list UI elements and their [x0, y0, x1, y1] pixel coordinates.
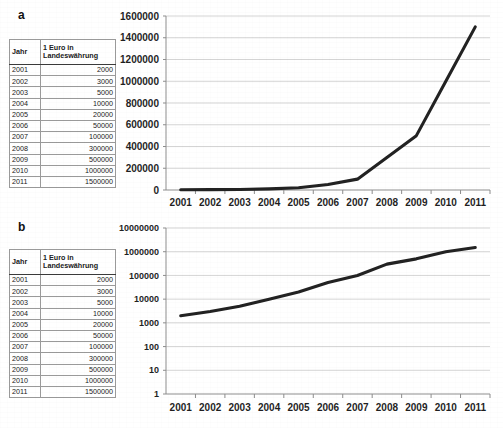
table-cell-year: 2011: [10, 176, 41, 187]
table-row: 200520000: [10, 109, 116, 120]
table-cell-rate: 3000: [41, 286, 116, 297]
table-cell-rate: 2000: [41, 65, 116, 76]
x-tick-label: 2004: [258, 402, 281, 413]
table-cell-rate: 5000: [41, 87, 116, 98]
table-cell-rate: 100000: [41, 342, 116, 353]
table-row: 2008300000: [10, 353, 116, 364]
table-cell-year: 2006: [10, 330, 41, 341]
table-b-header-row: Jahr 1 Euro in Landeswährung: [10, 250, 116, 275]
table-cell-year: 2005: [10, 319, 41, 330]
table-cell-rate: 50000: [41, 120, 116, 131]
y-tick-label: 100: [144, 342, 159, 352]
y-tick-label: 10: [149, 365, 159, 375]
chart-b-y-tick-labels: 110100100010000100000100000010000000: [119, 223, 159, 399]
y-tick-label: 10000000: [119, 223, 159, 233]
chart-a-gridlines: [163, 16, 490, 190]
panel-b: b Jahr 1 Euro in Landeswährung 200120002…: [0, 214, 503, 428]
table-cell-year: 2001: [10, 275, 41, 286]
chart-a-series-line: [181, 27, 476, 190]
table-cell-year: 2004: [10, 98, 41, 109]
table-row: 20101000000: [10, 165, 116, 176]
x-tick-label: 2009: [405, 402, 428, 413]
y-tick-label: 1000: [139, 318, 159, 328]
table-b-body: 2001200020023000200350002004100002005200…: [10, 275, 116, 398]
x-tick-label: 2007: [346, 402, 369, 413]
table-row: 20035000: [10, 87, 116, 98]
y-tick-label: 600000: [126, 119, 160, 130]
table-row: 20023000: [10, 76, 116, 87]
table-row: 2008300000: [10, 143, 116, 154]
table-row: 20035000: [10, 297, 116, 308]
panel-letter-a: a: [18, 8, 25, 22]
x-tick-label: 2005: [287, 197, 310, 208]
table-cell-year: 2009: [10, 154, 41, 165]
chart-linear-scale: 0200000400000600000800000100000012000001…: [110, 0, 503, 214]
table-cell-year: 2002: [10, 76, 41, 87]
table-cell-year: 2005: [10, 109, 41, 120]
table-cell-year: 2007: [10, 342, 41, 353]
x-tick-label: 2009: [405, 197, 428, 208]
x-tick-label: 2002: [199, 197, 222, 208]
table-cell-rate: 10000: [41, 308, 116, 319]
table-cell-rate: 20000: [41, 109, 116, 120]
table-row: 20012000: [10, 65, 116, 76]
table-cell-year: 2003: [10, 87, 41, 98]
table-cell-year: 2008: [10, 353, 41, 364]
table-a-header-rate-line2: Landeswährung: [43, 51, 98, 60]
x-tick-label: 2010: [435, 402, 458, 413]
x-tick-label: 2003: [229, 402, 252, 413]
table-row: 20101000000: [10, 375, 116, 386]
y-tick-label: 800000: [126, 98, 160, 109]
exchange-rate-table-a: Jahr 1 Euro in Landeswährung 20012000200…: [9, 39, 116, 188]
table-row: 2009500000: [10, 154, 116, 165]
table-cell-year: 2010: [10, 165, 41, 176]
x-tick-label: 2006: [317, 197, 340, 208]
table-cell-rate: 300000: [41, 143, 116, 154]
table-cell-rate: 20000: [41, 319, 116, 330]
chart-log-scale: 110100100010000100000100000010000000 200…: [110, 214, 503, 428]
y-tick-label: 400000: [126, 141, 160, 152]
table-cell-year: 2011: [10, 386, 41, 397]
table-row: 2007100000: [10, 132, 116, 143]
table-cell-year: 2008: [10, 143, 41, 154]
table-cell-year: 2010: [10, 375, 41, 386]
x-tick-label: 2006: [317, 402, 340, 413]
chart-a-y-tick-labels: 0200000400000600000800000100000012000001…: [120, 11, 159, 196]
table-a-header: Jahr 1 Euro in Landeswährung: [10, 40, 116, 65]
x-tick-label: 2001: [170, 197, 193, 208]
table-cell-year: 2004: [10, 308, 41, 319]
table-b-header-year: Jahr: [10, 250, 41, 275]
table-cell-rate: 1000000: [41, 165, 116, 176]
y-tick-label: 1: [154, 389, 159, 399]
table-cell-year: 2002: [10, 286, 41, 297]
table-row: 20111500000: [10, 176, 116, 187]
table-cell-year: 2001: [10, 65, 41, 76]
table-cell-year: 2003: [10, 297, 41, 308]
chart-b-x-tick-labels: 2001200220032004200520062007200820092010…: [170, 402, 487, 413]
chart-a-x-tick-labels: 2001200220032004200520062007200820092010…: [170, 197, 487, 208]
table-row: 200650000: [10, 120, 116, 131]
table-row: 20023000: [10, 286, 116, 297]
table-a-body: 2001200020023000200350002004100002005200…: [10, 65, 116, 188]
y-tick-label: 1200000: [120, 54, 159, 65]
table-row: 200650000: [10, 330, 116, 341]
table-cell-year: 2006: [10, 120, 41, 131]
x-tick-label: 2011: [464, 197, 486, 208]
table-cell-rate: 1000000: [41, 375, 116, 386]
table-cell-rate: 1500000: [41, 176, 116, 187]
y-tick-label: 1000000: [120, 76, 159, 87]
table-cell-rate: 1500000: [41, 386, 116, 397]
table-row: 200410000: [10, 308, 116, 319]
y-tick-label: 1600000: [120, 11, 159, 22]
y-tick-label: 10000: [134, 294, 159, 304]
table-cell-rate: 50000: [41, 330, 116, 341]
table-b-header-rate: 1 Euro in Landeswährung: [41, 250, 116, 275]
table-row: 200410000: [10, 98, 116, 109]
table-a-header-row: Jahr 1 Euro in Landeswährung: [10, 40, 116, 65]
y-tick-label: 1000000: [124, 247, 159, 257]
table-cell-rate: 3000: [41, 76, 116, 87]
table-cell-rate: 10000: [41, 98, 116, 109]
table-a-header-year: Jahr: [10, 40, 41, 65]
panel-a: a Jahr 1 Euro in Landeswährung 200120002…: [0, 0, 503, 214]
table-row: 2007100000: [10, 342, 116, 353]
